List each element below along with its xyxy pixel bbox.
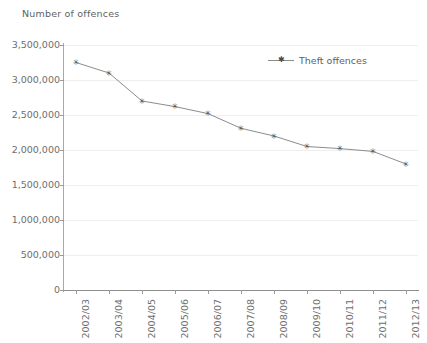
legend-label-theft-offences: Theft offences	[299, 55, 367, 66]
x-tick-label: 2012/13	[410, 299, 421, 338]
data-point-marker: ✳	[271, 132, 278, 141]
data-point-marker: ✳	[73, 58, 80, 67]
chart-container: Number of offences ✳✳✳✳✳✳✳✳✳✳✳ 0500,0001…	[0, 0, 427, 343]
plot-area: ✳✳✳✳✳✳✳✳✳✳✳	[64, 45, 418, 290]
y-tick-label: 2,500,000	[2, 109, 60, 120]
x-tick-label: 2004/05	[146, 299, 157, 338]
y-tick-label: 1,500,000	[2, 179, 60, 190]
y-tick-label: 2,000,000	[2, 144, 60, 155]
x-tick-mark	[241, 290, 242, 294]
y-tick-label: 0	[2, 284, 60, 295]
data-point-marker: ✳	[205, 109, 212, 118]
data-point-marker: ✳	[172, 102, 179, 111]
x-tick-mark	[109, 290, 110, 294]
x-tick-mark	[208, 290, 209, 294]
x-tick-mark	[142, 290, 143, 294]
series-line	[76, 63, 406, 165]
x-tick-label: 2003/04	[113, 299, 124, 338]
data-point-marker: ✳	[370, 147, 377, 156]
y-tick-mark	[60, 45, 64, 46]
x-tick-label: 2006/07	[212, 299, 223, 338]
y-tick-label: 500,000	[2, 249, 60, 260]
x-tick-label: 2009/10	[311, 299, 322, 338]
y-tick-mark	[60, 220, 64, 221]
y-tick-label: 3,500,000	[2, 39, 60, 50]
y-axis-ticks: 0500,0001,000,0001,500,0002,000,0002,500…	[0, 0, 60, 343]
x-tick-mark	[76, 290, 77, 294]
chart-legend: ✱ Theft offences	[268, 55, 367, 66]
x-tick-label: 2008/09	[278, 299, 289, 338]
y-tick-mark	[60, 255, 64, 256]
x-tick-label: 2005/06	[179, 299, 190, 338]
star-marker-icon: ✱	[278, 57, 284, 63]
y-tick-mark	[60, 80, 64, 81]
data-point-marker: ✳	[139, 97, 146, 106]
data-point-marker: ✳	[304, 142, 311, 151]
x-tick-label: 2010/11	[344, 299, 355, 338]
data-point-marker: ✳	[238, 124, 245, 133]
legend-swatch-theft-offences: ✱	[268, 56, 294, 65]
y-tick-mark	[60, 290, 64, 291]
series-theft-offences: ✳✳✳✳✳✳✳✳✳✳✳	[64, 45, 418, 290]
y-tick-mark	[60, 115, 64, 116]
data-point-marker: ✳	[106, 69, 113, 78]
x-tick-mark	[175, 290, 176, 294]
x-tick-mark	[307, 290, 308, 294]
y-tick-label: 3,000,000	[2, 74, 60, 85]
x-tick-mark	[406, 290, 407, 294]
data-point-marker: ✳	[403, 160, 410, 169]
x-tick-mark	[274, 290, 275, 294]
y-tick-mark	[60, 150, 64, 151]
y-tick-mark	[60, 185, 64, 186]
data-point-marker: ✳	[337, 144, 344, 153]
x-tick-mark	[340, 290, 341, 294]
y-tick-label: 1,000,000	[2, 214, 60, 225]
x-tick-mark	[373, 290, 374, 294]
x-tick-label: 2002/03	[80, 299, 91, 338]
x-tick-label: 2007/08	[245, 299, 256, 338]
x-tick-label: 2011/12	[377, 299, 388, 338]
